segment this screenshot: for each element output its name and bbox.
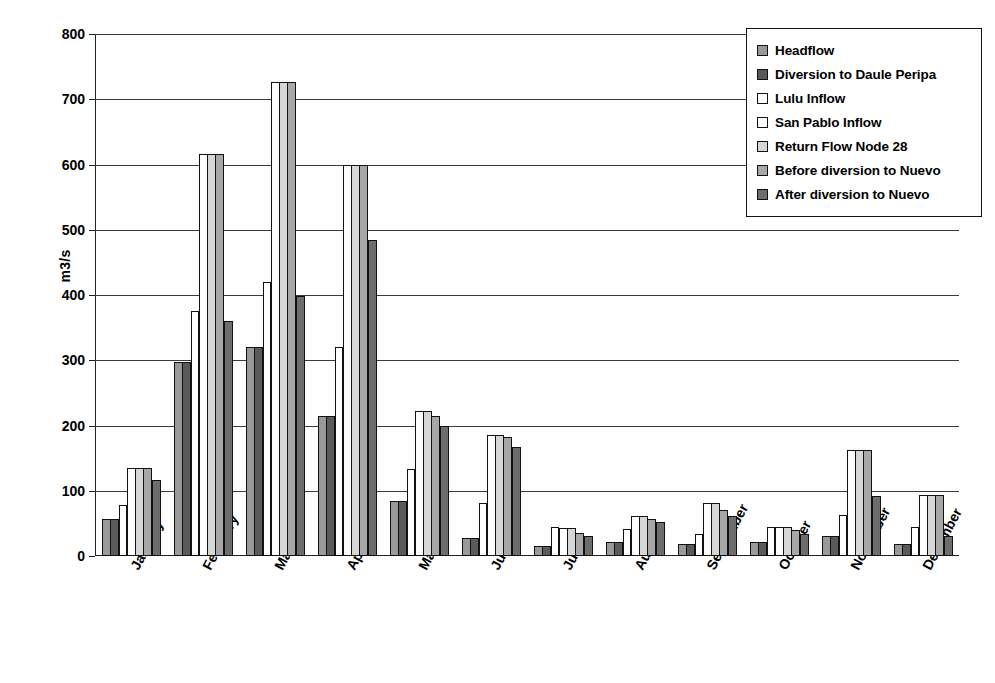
bar (695, 534, 704, 556)
bar (335, 347, 344, 556)
bar (174, 362, 183, 556)
legend-swatch-icon (757, 93, 768, 104)
bar (767, 527, 776, 556)
bar (326, 416, 335, 556)
bar (440, 426, 449, 557)
bar (872, 496, 881, 556)
bar (479, 503, 488, 557)
bar (855, 450, 864, 556)
legend-item-label: Headflow (775, 43, 834, 58)
legend-swatch-icon (757, 45, 768, 56)
bar (839, 515, 848, 556)
bar (927, 495, 936, 556)
bar (894, 544, 903, 556)
bar-group (462, 34, 520, 556)
bar (911, 527, 920, 556)
bar (398, 501, 407, 556)
bar (542, 546, 551, 556)
bar (830, 536, 839, 556)
legend-item-label: Before diversion to Nuevo (775, 163, 941, 178)
y-axis-tick-label: 100 (62, 483, 85, 499)
bar (199, 154, 208, 556)
y-axis-tick-mark (89, 556, 95, 557)
bar (783, 527, 792, 556)
y-axis-tick-label: 200 (62, 418, 85, 434)
bar (423, 411, 432, 556)
bar (368, 240, 377, 556)
bar (551, 527, 560, 556)
bar (287, 82, 296, 556)
bar (431, 416, 440, 556)
legend-item-label: After diversion to Nuevo (775, 187, 929, 202)
bar (470, 538, 479, 556)
bar (575, 533, 584, 556)
bar (639, 516, 648, 556)
bar (246, 347, 255, 556)
bar (614, 542, 623, 556)
legend-item-label: Return Flow Node 28 (775, 139, 907, 154)
bar (296, 296, 305, 556)
legend-swatch-icon (757, 117, 768, 128)
bar (119, 505, 128, 556)
bar-group (318, 34, 376, 556)
bar (271, 82, 280, 556)
y-axis-tick-label: 500 (62, 222, 85, 238)
bar (944, 536, 953, 556)
legend-item: Return Flow Node 28 (757, 134, 973, 158)
bar (407, 469, 416, 556)
bar (135, 468, 144, 556)
legend-swatch-icon (757, 165, 768, 176)
legend-item: Before diversion to Nuevo (757, 158, 973, 182)
bar (902, 544, 911, 556)
bar (110, 519, 119, 556)
bar (800, 534, 809, 556)
bar (351, 165, 360, 557)
bar (415, 411, 424, 556)
bar (919, 495, 928, 556)
bar-group (534, 34, 592, 556)
bar (711, 503, 720, 557)
bar (678, 544, 687, 556)
legend-item-label: San Pablo Inflow (775, 115, 881, 130)
y-axis-tick-label: 600 (62, 157, 85, 173)
bar (863, 450, 872, 556)
bar (623, 529, 632, 556)
bar (263, 282, 272, 556)
legend-item: Lulu Inflow (757, 86, 973, 110)
bar (359, 165, 368, 557)
y-axis-tick-label: 400 (62, 287, 85, 303)
legend-item: After diversion to Nuevo (757, 182, 973, 206)
y-axis-tick-label: 700 (62, 91, 85, 107)
bar-group (606, 34, 664, 556)
y-axis-tick-label: 0 (77, 548, 85, 564)
bar (343, 165, 352, 557)
legend-item-label: Diversion to Daule Peripa (775, 67, 936, 82)
bar (127, 468, 136, 556)
bar (606, 542, 615, 556)
bar (656, 522, 665, 556)
legend-swatch-icon (757, 69, 768, 80)
bar (207, 154, 216, 556)
bar (279, 82, 288, 556)
legend-item: San Pablo Inflow (757, 110, 973, 134)
bar (495, 435, 504, 556)
bar (935, 495, 944, 556)
bar (503, 437, 512, 556)
bar-group (174, 34, 232, 556)
bar (143, 468, 152, 556)
bar-group (678, 34, 736, 556)
bar (390, 501, 399, 556)
legend: HeadflowDiversion to Daule PeripaLulu In… (746, 28, 982, 217)
bar (462, 538, 471, 556)
bar (567, 528, 576, 556)
bar-group (102, 34, 160, 556)
bar (719, 510, 728, 556)
legend-item-label: Lulu Inflow (775, 91, 845, 106)
bar (512, 447, 521, 556)
bar (318, 416, 327, 556)
bar (791, 530, 800, 556)
bar (647, 519, 656, 556)
legend-item: Headflow (757, 38, 973, 62)
bar (631, 516, 640, 556)
legend-swatch-icon (757, 189, 768, 200)
